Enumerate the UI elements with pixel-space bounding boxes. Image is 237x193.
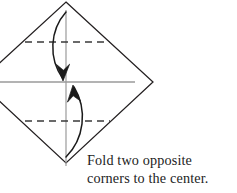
caption-line-1: Fold two opposite [87, 152, 237, 170]
instruction-caption: Fold two opposite corners to the center. [87, 152, 237, 187]
origami-figure: Fold two opposite corners to the center. [0, 0, 237, 193]
caption-line-2: corners to the center. [87, 170, 237, 188]
fold-down-arrow-icon [53, 12, 70, 81]
